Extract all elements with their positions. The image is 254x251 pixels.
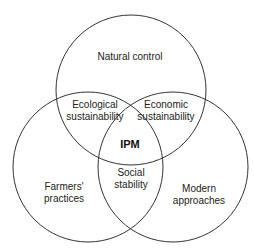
label-modern: Modern [182, 183, 216, 194]
label-ecological: Ecological [72, 99, 118, 110]
label-ipm: IPM [120, 138, 140, 150]
label-farmers: Farmers' [44, 181, 83, 192]
label-modern-approaches: approaches [173, 195, 225, 206]
label-social: Social [117, 167, 144, 178]
venn-diagram: Natural control Ecological sustainabilit… [0, 0, 254, 251]
label-ecological-sustainability: sustainability [66, 111, 123, 122]
label-natural-control: Natural control [97, 51, 162, 62]
label-economic: Economic [144, 99, 188, 110]
label-farmers-practices: practices [44, 193, 84, 204]
label-economic-sustainability: sustainability [137, 111, 194, 122]
label-social-stability: stability [114, 179, 147, 190]
